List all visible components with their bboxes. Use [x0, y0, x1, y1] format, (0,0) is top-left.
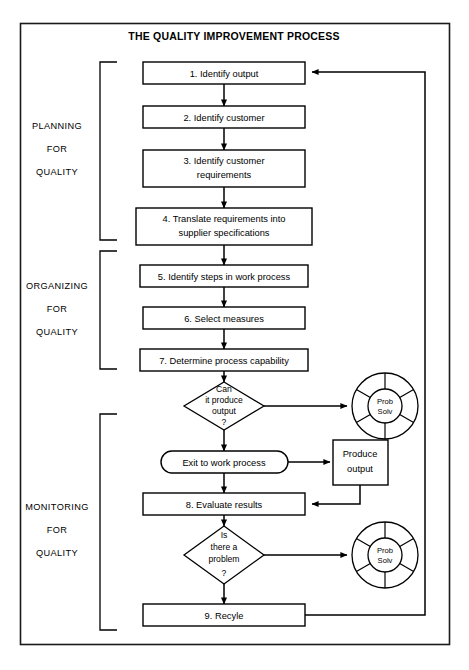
- prob-solv-2-node[interactable]: Prob Solv: [352, 522, 418, 588]
- prob-solv-2-spokes: [356, 522, 413, 588]
- step-5-label: 5. Identify steps in work process: [158, 272, 291, 282]
- phase-label-planning: PLANNING FOR QUALITY: [32, 121, 82, 177]
- step-6-label: 6. Select measures: [184, 314, 264, 324]
- step-4-node[interactable]: 4. Translate requirements into supplier …: [136, 208, 312, 245]
- step-6-node[interactable]: 6. Select measures: [143, 307, 305, 329]
- prob-solv-2-line-1: Prob: [377, 546, 393, 555]
- decision-problem-line-3: problem: [208, 554, 239, 564]
- produce-output-node[interactable]: Produce output: [333, 440, 388, 485]
- svg-text:QUALITY: QUALITY: [36, 548, 78, 558]
- decision-problem-line-2: there a: [211, 542, 238, 552]
- phase-label-monitoring: MONITORING FOR QUALITY: [25, 502, 89, 558]
- quality-improvement-process-diagram: THE QUALITY IMPROVEMENT PROCESS PLANNING…: [0, 0, 469, 670]
- step-9-node[interactable]: 9. Recyle: [143, 604, 305, 626]
- step-7-node[interactable]: 7. Determine process capability: [140, 349, 308, 371]
- step-5-node[interactable]: 5. Identify steps in work process: [140, 265, 308, 287]
- bracket-monitoring: [100, 414, 117, 630]
- decision-can-produce-line-3: output: [212, 406, 237, 416]
- decision-can-produce-line-4: ?: [222, 417, 227, 427]
- decision-can-produce-line-1: Can: [216, 384, 232, 394]
- decision-problem-line-4: ?: [222, 568, 227, 578]
- svg-text:QUALITY: QUALITY: [36, 327, 78, 337]
- svg-text:ORGANIZING: ORGANIZING: [26, 281, 88, 291]
- svg-text:PLANNING: PLANNING: [32, 121, 82, 131]
- prob-solv-1-spokes: [356, 373, 413, 439]
- prob-solv-2-line-2: Solv: [378, 556, 393, 565]
- step-4-label-line-2: supplier specifications: [179, 228, 270, 238]
- step-9-label: 9. Recyle: [205, 611, 244, 621]
- exit-to-work-process-node[interactable]: Exit to work process: [161, 451, 288, 473]
- produce-output-line-2: output: [347, 464, 373, 474]
- prob-solv-1-inner-circle: [368, 389, 402, 423]
- exit-to-work-process-label: Exit to work process: [182, 458, 266, 468]
- decision-can-produce-node[interactable]: Can it produce output ?: [184, 382, 264, 430]
- prob-solv-1-line-2: Solv: [378, 407, 393, 416]
- step-8-label: 8. Evaluate results: [186, 500, 263, 510]
- prob-solv-1-line-1: Prob: [377, 397, 393, 406]
- step-8-node[interactable]: 8. Evaluate results: [143, 493, 305, 515]
- decision-can-produce-line-2: it produce: [205, 395, 243, 405]
- prob-solv-1-node[interactable]: Prob Solv: [352, 373, 418, 439]
- step-3-label-line-2: requirements: [197, 170, 252, 180]
- svg-text:MONITORING: MONITORING: [25, 502, 89, 512]
- step-7-label: 7. Determine process capability: [159, 356, 289, 366]
- produce-output-line-1: Produce: [343, 449, 378, 459]
- bracket-organizing: [100, 251, 117, 369]
- edge-produce-output-to-step-8: [312, 485, 360, 504]
- svg-text:FOR: FOR: [47, 304, 68, 314]
- prob-solv-2-inner-circle: [368, 538, 402, 572]
- step-2-node[interactable]: 2. Identify customer: [143, 106, 305, 128]
- bracket-planning: [100, 62, 117, 240]
- step-1-label: 1. Identify output: [190, 69, 259, 79]
- step-2-label: 2. Identify customer: [183, 113, 264, 123]
- svg-text:FOR: FOR: [47, 525, 68, 535]
- step-3-node[interactable]: 3. Identify customer requirements: [143, 150, 305, 187]
- step-4-label-line-1: 4. Translate requirements into: [163, 214, 286, 224]
- edge-step-9-to-step-1: [305, 72, 425, 615]
- svg-text:QUALITY: QUALITY: [36, 167, 78, 177]
- step-1-node[interactable]: 1. Identify output: [143, 62, 305, 84]
- page-title: THE QUALITY IMPROVEMENT PROCESS: [128, 30, 339, 42]
- decision-problem-line-1: Is: [221, 530, 228, 540]
- step-3-label-line-1: 3. Identify customer: [183, 156, 264, 166]
- phase-label-organizing: ORGANIZING FOR QUALITY: [26, 281, 88, 337]
- svg-text:FOR: FOR: [47, 144, 68, 154]
- decision-problem-node[interactable]: Is there a problem ?: [184, 526, 264, 584]
